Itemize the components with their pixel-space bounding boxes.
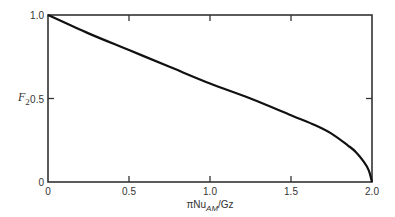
axis-ticks: [48, 15, 372, 182]
x-tick-label: 0: [45, 186, 51, 197]
chart: 00.51.01.52.000.51.0 F2 πNuAM/Gz: [0, 0, 395, 217]
x-axis-label: πNuAM/Gz: [186, 199, 233, 213]
tick-labels: 00.51.01.52.000.51.0: [30, 10, 379, 197]
y-tick-label: 1.0: [30, 10, 44, 21]
x-tick-label: 0.5: [122, 186, 136, 197]
x-tick-label: 1.5: [284, 186, 298, 197]
plot-frame: [48, 15, 372, 182]
data-line-f2: [48, 15, 372, 182]
y-tick-label: 0.5: [30, 94, 44, 105]
x-tick-label: 2.0: [365, 186, 379, 197]
x-tick-label: 1.0: [203, 186, 217, 197]
y-tick-label: 0: [38, 177, 44, 188]
y-axis-label: F2: [17, 90, 30, 107]
